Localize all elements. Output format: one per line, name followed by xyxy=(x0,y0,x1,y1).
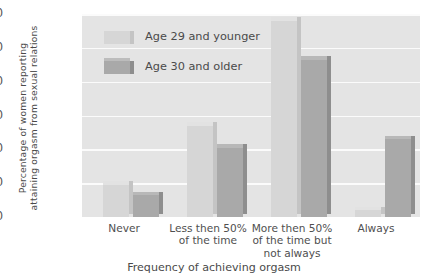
y-axis-title: Percentage of women reporting attaining … xyxy=(13,7,43,229)
bar-face xyxy=(133,195,159,217)
bar-always-age29-younger xyxy=(355,210,381,217)
y-tick-label-60: 60 xyxy=(0,8,3,20)
legend-item-age30-older: Age 30 and older xyxy=(104,56,260,76)
bar-more-then-50-age30-older xyxy=(301,60,327,217)
gridline-10 xyxy=(82,183,420,185)
x-axis-title: Frequency of achieving orgasm xyxy=(0,261,428,274)
plot-area: Age 29 and younger Age 30 and older xyxy=(82,14,420,217)
gridline-60 xyxy=(82,14,420,16)
legend: Age 29 and younger Age 30 and older xyxy=(104,26,260,76)
y-tick-label-30: 30 xyxy=(0,110,3,122)
bar-top xyxy=(217,144,243,148)
y-tick-label-50: 50 xyxy=(0,42,3,54)
bar-top xyxy=(385,136,411,140)
bar-side xyxy=(159,192,163,214)
y-tick-label-0: 0 xyxy=(0,211,3,223)
bar-less-then-50-age30-older xyxy=(217,148,243,217)
x-tick-line: not always xyxy=(250,247,334,259)
y-tick-label-40: 40 xyxy=(0,76,3,88)
bar-face xyxy=(103,185,129,217)
bar-side xyxy=(297,17,301,213)
x-tick-line: More then 50% xyxy=(250,222,334,234)
bar-top xyxy=(187,122,213,126)
y-axis-title-line2: attaining orgasm from sexual relations xyxy=(28,25,40,210)
bar-more-then-50-age29-younger xyxy=(271,21,297,217)
bar-side xyxy=(381,207,385,214)
bar-face xyxy=(217,148,243,217)
y-tick-label-20: 20 xyxy=(0,143,3,155)
gridline-40 xyxy=(82,82,420,84)
bar-side xyxy=(243,144,247,213)
x-tick-label-less-then-50: Less then 50% of the time xyxy=(166,222,250,247)
bar-side xyxy=(213,122,217,213)
swatch-face xyxy=(104,61,130,74)
swatch-face xyxy=(104,31,130,44)
bar-top xyxy=(355,207,381,211)
legend-label-age29-younger: Age 29 and younger xyxy=(145,30,260,43)
bar-top xyxy=(301,56,327,60)
bar-never-age30-older xyxy=(133,195,159,217)
bar-side xyxy=(327,56,331,213)
x-tick-line: of the time xyxy=(166,234,250,246)
x-tick-label-more-then-50: More then 50% of the time but not always xyxy=(250,222,334,259)
legend-swatch-icon-age29-younger xyxy=(104,28,134,44)
y-tick-label-10: 10 xyxy=(0,177,3,189)
gridline-30 xyxy=(82,116,420,118)
x-tick-line: Less then 50% xyxy=(166,222,250,234)
bar-less-then-50-age29-younger xyxy=(187,126,213,217)
y-axis-title-line1: Percentage of women reporting xyxy=(17,43,29,193)
bar-always-age30-older xyxy=(385,139,411,217)
x-tick-line: Never xyxy=(82,222,166,234)
bar-face xyxy=(355,210,381,217)
x-tick-label-never: Never xyxy=(82,222,166,234)
gridline-20 xyxy=(82,149,420,151)
bar-top xyxy=(271,17,297,21)
bar-face xyxy=(301,60,327,217)
bar-face xyxy=(187,126,213,217)
legend-label-age30-older: Age 30 and older xyxy=(145,60,242,73)
legend-item-age29-younger: Age 29 and younger xyxy=(104,26,260,46)
x-tick-line: of the time but xyxy=(250,234,334,246)
swatch-side xyxy=(130,31,134,44)
bar-top xyxy=(103,181,129,185)
bar-never-age29-younger xyxy=(103,185,129,217)
bar-side xyxy=(129,181,133,213)
bar-face xyxy=(271,21,297,217)
legend-swatch-icon-age30-older xyxy=(104,58,134,74)
x-tick-line: Always xyxy=(334,222,418,234)
bar-chart-figure: Percentage of women reporting attaining … xyxy=(0,0,428,278)
bar-side xyxy=(411,136,415,214)
x-tick-label-always: Always xyxy=(334,222,418,234)
bar-face xyxy=(385,139,411,217)
swatch-side xyxy=(130,61,134,74)
bar-top xyxy=(133,192,159,196)
